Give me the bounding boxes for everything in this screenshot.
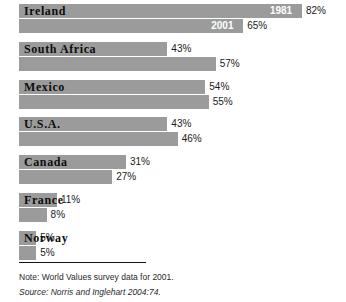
bar-2001 xyxy=(19,19,243,33)
value-label: 8% xyxy=(47,208,65,222)
bar-group: 43%57%South Africa xyxy=(19,42,346,72)
bar-2001 xyxy=(19,246,36,260)
bar-group: 11%8%France xyxy=(19,193,346,223)
figure-container: 198182%200165%Ireland43%57%South Africa5… xyxy=(0,0,346,302)
value-label: 43% xyxy=(167,117,191,131)
bar-row: 55% xyxy=(19,95,346,109)
bar-row: 43% xyxy=(19,117,346,131)
series-label-1981: 1981 xyxy=(270,4,292,18)
bar-group: 54%55%Mexico xyxy=(19,80,346,110)
bar-row: 200165% xyxy=(19,19,346,33)
bar-group: 198182%200165%Ireland xyxy=(19,4,346,34)
category-label: South Africa xyxy=(24,42,96,56)
bar-row: 8% xyxy=(19,208,346,222)
value-label: 5% xyxy=(36,246,54,260)
bar-group: 5%5%Norway xyxy=(19,231,346,261)
bar-group: 43%46%U.S.A. xyxy=(19,117,346,147)
bar-2001 xyxy=(19,95,209,109)
bar-row: 31% xyxy=(19,155,346,169)
value-label: 31% xyxy=(126,155,150,169)
bar-2001 xyxy=(19,57,216,71)
bar-row: 46% xyxy=(19,132,346,146)
value-label: 65% xyxy=(243,19,267,33)
bar-2001 xyxy=(19,132,178,146)
bar-row: 27% xyxy=(19,170,346,184)
footer-divider xyxy=(19,262,146,263)
bar-2001 xyxy=(19,170,112,184)
category-label: Mexico xyxy=(24,80,65,94)
value-label: 55% xyxy=(209,95,233,109)
chart-source: Source: Norris and Inglehart 2004:74. xyxy=(19,287,161,297)
category-label: France xyxy=(24,193,64,207)
chart-note: Note: World Values survey data for 2001. xyxy=(19,272,174,282)
bar-row: 57% xyxy=(19,57,346,71)
series-label-2001: 2001 xyxy=(211,19,233,33)
value-label: 43% xyxy=(167,42,191,56)
bar-group: 31%27%Canada xyxy=(19,155,346,185)
bar-row: 198182% xyxy=(19,4,346,18)
bar-2001 xyxy=(19,208,47,222)
value-label: 46% xyxy=(178,132,202,146)
category-label: Norway xyxy=(24,231,68,245)
category-label: U.S.A. xyxy=(24,117,61,131)
category-label: Ireland xyxy=(24,4,66,18)
value-label: 54% xyxy=(205,80,229,94)
bar-chart-plot: 198182%200165%Ireland43%57%South Africa5… xyxy=(0,0,346,258)
value-label: 82% xyxy=(302,4,326,18)
bar-row: 5% xyxy=(19,246,346,260)
value-label: 57% xyxy=(216,57,240,71)
bar-row: 54% xyxy=(19,80,346,94)
value-label: 27% xyxy=(112,170,136,184)
bar-row: 11% xyxy=(19,193,346,207)
category-label: Canada xyxy=(24,155,68,169)
